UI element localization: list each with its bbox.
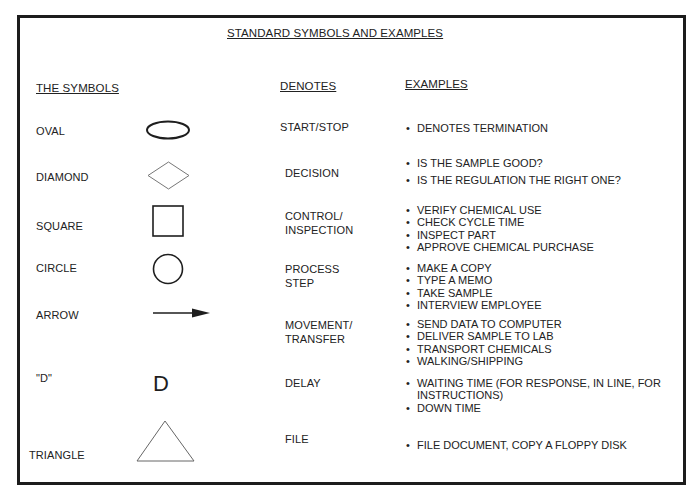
example-item: MAKE A COPY [406,262,542,274]
examples-arrow: SEND DATA TO COMPUTER DELIVER SAMPLE TO … [406,318,562,367]
header-examples: EXAMPLES [405,78,468,91]
examples-oval: DENOTES TERMINATION [406,122,548,134]
example-item: DELIVER SAMPLE TO LAB [406,330,562,342]
symbol-name-square: SQUARE [36,220,83,233]
denotes-decision: DECISION [285,167,339,180]
example-item: INTERVIEW EMPLOYEE [406,299,542,311]
examples-diamond: IS THE SAMPLE GOOD? IS THE REGULATION TH… [406,155,621,189]
oval-icon [146,120,192,142]
symbol-name-diamond: DIAMOND [36,171,89,184]
denotes-line: INSPECTION [285,223,353,237]
examples-d: WAITING TIME (FOR RESPONSE, IN LINE, FOR… [406,377,687,414]
examples-square: VERIFY CHEMICAL USE CHECK CYCLE TIME INS… [406,204,594,253]
header-symbols: THE SYMBOLS [36,82,119,95]
example-item: CHECK CYCLE TIME [406,216,594,228]
denotes-line: CONTROL/ [285,209,353,223]
circle-icon [152,253,184,286]
denotes-line: PROCESS [285,262,340,276]
denotes-line: TRANSFER [285,332,353,346]
denotes-process-step: PROCESS STEP [285,262,340,290]
example-item: SEND DATA TO COMPUTER [406,318,562,330]
square-icon [152,205,184,238]
denotes-start-stop: START/STOP [280,121,349,134]
example-item: TAKE SAMPLE [406,287,542,299]
example-item: FILE DOCUMENT, COPY A FLOPPY DISK [406,439,627,451]
example-item: INSPECT PART [406,229,594,241]
example-item: WAITING TIME (FOR RESPONSE, IN LINE, FOR… [406,377,687,402]
denotes-movement-transfer: MOVEMENT/ TRANSFER [285,318,353,346]
example-item: TYPE A MEMO [406,274,542,286]
examples-triangle: FILE DOCUMENT, COPY A FLOPPY DISK [406,439,627,451]
denotes-file: FILE [285,433,309,446]
example-item: IS THE REGULATION THE RIGHT ONE? [406,172,621,189]
denotes-delay: DELAY [285,377,321,390]
symbol-name-circle: CIRCLE [36,262,77,275]
example-item: TRANSPORT CHEMICALS [406,343,562,355]
symbol-name-d: "D" [36,372,52,385]
denotes-control-inspection: CONTROL/ INSPECTION [285,209,353,237]
denotes-line: STEP [285,276,340,290]
symbol-name-arrow: ARROW [36,309,79,322]
d-letter-icon: D [153,372,169,396]
triangle-icon [136,420,196,463]
denotes-line: MOVEMENT/ [285,318,353,332]
example-item: WALKING/SHIPPING [406,355,562,367]
page-title: STANDARD SYMBOLS AND EXAMPLES [227,27,443,40]
symbol-name-triangle: TRIANGLE [29,449,85,462]
header-denotes: DENOTES [280,80,336,93]
symbol-name-oval: OVAL [36,125,65,138]
diamond-icon [147,161,191,191]
example-item: APPROVE CHEMICAL PURCHASE [406,241,594,253]
example-item: IS THE SAMPLE GOOD? [406,155,621,172]
example-item: DENOTES TERMINATION [406,122,548,134]
examples-circle: MAKE A COPY TYPE A MEMO TAKE SAMPLE INTE… [406,262,542,311]
arrow-icon [152,306,212,320]
example-item: DOWN TIME [406,402,687,414]
example-item: VERIFY CHEMICAL USE [406,204,594,216]
